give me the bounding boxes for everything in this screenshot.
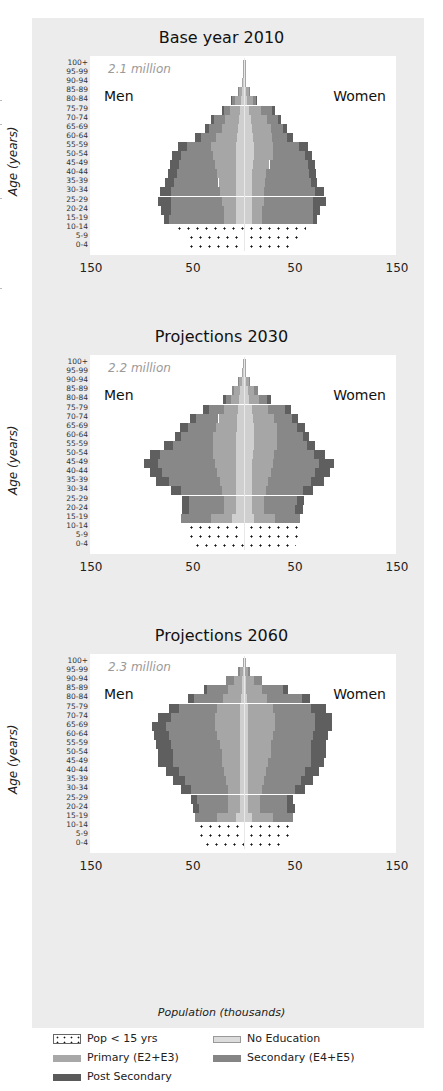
total-population-label: 2.3 million — [108, 660, 171, 674]
men-prim-segment — [219, 414, 237, 423]
women-sec-segment — [274, 414, 292, 423]
legend-item-under15: Pop < 15 yrs — [53, 1032, 157, 1045]
men-sec-segment — [173, 749, 222, 758]
men-sec-segment — [173, 441, 214, 450]
men-post-segment — [165, 178, 173, 187]
women-prim-segment — [252, 459, 272, 468]
women-prim-segment — [252, 178, 265, 187]
men-post-segment — [144, 459, 158, 468]
men-prim-segment — [222, 486, 236, 495]
women-post-segment — [305, 767, 319, 776]
men-prim-segment — [223, 694, 241, 703]
women-sec-segment — [270, 160, 309, 169]
women-sec-segment — [249, 87, 250, 96]
women-noedu-segment — [244, 151, 254, 160]
under-15-bar — [245, 822, 292, 831]
men-noedu-segment — [236, 468, 244, 477]
women-prim-segment — [252, 468, 270, 477]
men-prim-segment — [213, 441, 235, 450]
men-sec-segment — [171, 740, 220, 749]
women-post-segment — [311, 758, 323, 767]
men-sec-segment — [224, 106, 230, 115]
women-sec-segment — [264, 776, 301, 785]
women-post-segment — [297, 423, 305, 432]
women-noedu-segment — [244, 169, 252, 178]
women-label: Women — [333, 387, 386, 403]
primary-swatch-icon — [53, 1055, 81, 1062]
men-sec-segment — [232, 386, 234, 395]
x-tick-label: 150 — [386, 261, 409, 275]
men-prim-segment — [215, 722, 239, 731]
men-noedu-segment — [237, 414, 244, 423]
men-post-segment — [158, 758, 172, 767]
women-prim-segment — [248, 776, 264, 785]
men-noedu-segment — [232, 514, 244, 523]
men-prim-segment — [215, 160, 235, 169]
total-population-label: 2.1 million — [108, 62, 171, 76]
men-prim-segment — [242, 78, 243, 87]
men-sec-segment — [209, 124, 221, 133]
women-sec-segment — [266, 486, 303, 495]
women-post-segment — [302, 694, 310, 703]
men-prim-segment — [215, 713, 239, 722]
men-post-segment — [154, 731, 168, 740]
page-edge-marks — [0, 18, 3, 298]
women-noedu-segment — [244, 514, 254, 523]
panel-title: Base year 2010 — [0, 28, 443, 47]
men-sec-segment — [171, 197, 222, 206]
men-sec-segment — [191, 785, 228, 794]
x-tick-label: 150 — [386, 560, 409, 574]
men-post-segment — [181, 785, 191, 794]
women-noedu-segment — [244, 496, 252, 505]
women-post-segment — [295, 505, 303, 514]
men-label: Men — [104, 88, 134, 104]
women-post-segment — [313, 215, 317, 224]
women-prim-segment — [246, 685, 262, 694]
legend: Pop < 15 yrs No Education Primary (E2+E3… — [53, 1032, 433, 1090]
y-axis-title: Age (years) — [6, 725, 20, 794]
men-post-segment — [231, 96, 232, 105]
x-axis-title: Population (thousands) — [0, 1006, 443, 1019]
men-post-segment — [171, 486, 181, 495]
men-post-segment — [150, 468, 162, 477]
men-label: Men — [104, 387, 134, 403]
women-prim-segment — [254, 151, 272, 160]
men-prim-segment — [216, 133, 236, 142]
legend-item-primary: Primary (E2+E3) — [53, 1051, 179, 1064]
women-noedu-segment — [244, 468, 252, 477]
men-sec-segment — [158, 459, 215, 468]
men-prim-segment — [213, 151, 235, 160]
men-sec-segment — [181, 514, 212, 523]
legend-label: Pop < 15 yrs — [87, 1032, 157, 1045]
men-post-segment — [175, 432, 181, 441]
men-sec-segment — [181, 151, 214, 160]
under-15-bar — [185, 523, 244, 532]
men-post-segment — [161, 206, 170, 215]
women-prim-segment — [249, 395, 259, 404]
men-prim-segment — [224, 215, 236, 224]
under-15-bar — [245, 840, 282, 849]
women-prim-segment — [248, 767, 266, 776]
men-sec-segment — [195, 813, 217, 822]
women-noedu-segment — [244, 450, 253, 459]
men-prim-segment — [224, 405, 238, 414]
women-post-segment — [285, 405, 291, 414]
men-sec-segment — [238, 87, 239, 96]
men-noedu-segment — [237, 133, 244, 142]
men-post-segment — [190, 414, 196, 423]
men-prim-segment — [220, 187, 236, 196]
women-sec-segment — [277, 432, 304, 441]
women-noedu-segment — [244, 197, 252, 206]
men-post-segment — [182, 496, 189, 505]
men-noedu-segment — [236, 486, 244, 495]
men-sec-segment — [201, 133, 216, 142]
men-sec-segment — [226, 676, 234, 685]
women-noedu-segment — [244, 133, 253, 142]
men-prim-segment — [217, 468, 235, 477]
men-sec-segment — [169, 215, 224, 224]
women-sec-segment — [275, 713, 316, 722]
legend-label: No Education — [247, 1032, 320, 1045]
men-post-segment — [205, 124, 209, 133]
men-post-segment — [164, 215, 168, 224]
men-noedu-segment — [236, 160, 244, 169]
